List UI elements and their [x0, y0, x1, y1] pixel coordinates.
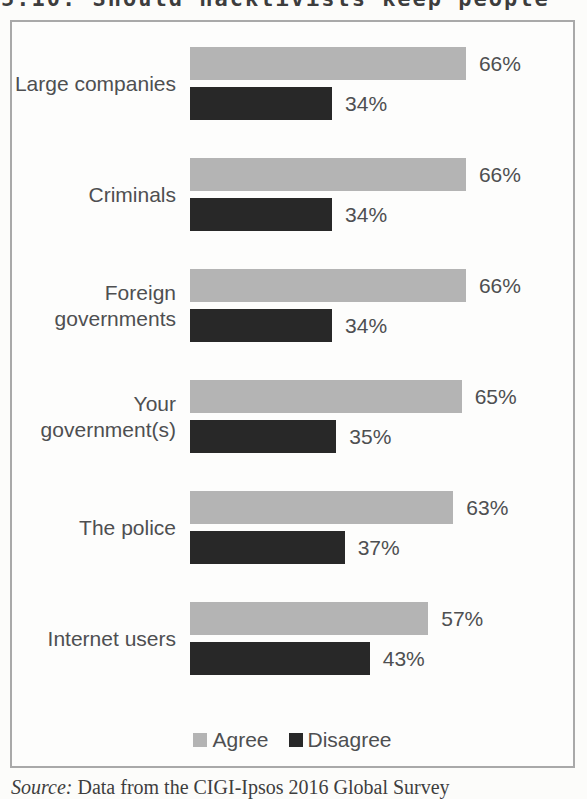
bar-line-disagree: 34% — [190, 309, 573, 342]
bar-line-disagree: 35% — [190, 420, 573, 453]
bar-pair: 57%43% — [190, 602, 573, 675]
legend-label-disagree: Disagree — [308, 728, 392, 752]
chart-row: The police63%37% — [12, 491, 573, 564]
bar-value-label: 66% — [479, 52, 521, 76]
bar-line-disagree: 37% — [190, 531, 573, 564]
bar-value-label: 65% — [475, 385, 517, 409]
disagree-bar — [190, 531, 345, 564]
bar-value-label: 34% — [345, 314, 387, 338]
chart-row: Large companies66%34% — [12, 47, 573, 120]
chart-row: Criminals66%34% — [12, 158, 573, 231]
disagree-bar — [190, 642, 370, 675]
source-note: Source: Data from the CIGI-Ipsos 2016 Gl… — [11, 776, 450, 799]
chart-row: Foreign governments66%34% — [12, 269, 573, 342]
bar-line-agree: 57% — [190, 602, 573, 635]
category-label: Your government(s) — [12, 391, 190, 443]
disagree-swatch-icon — [289, 733, 303, 747]
legend-item-disagree: Disagree — [289, 728, 392, 752]
agree-bar — [190, 491, 453, 524]
disagree-bar — [190, 420, 336, 453]
chart-rows: Large companies66%34%Criminals66%34%Fore… — [12, 47, 573, 675]
disagree-bar — [190, 198, 332, 231]
category-label: Internet users — [12, 626, 190, 652]
bar-line-disagree: 34% — [190, 198, 573, 231]
bar-value-label: 63% — [466, 496, 508, 520]
bar-value-label: 66% — [479, 163, 521, 187]
disagree-bar — [190, 87, 332, 120]
agree-bar — [190, 47, 466, 80]
bar-line-agree: 63% — [190, 491, 573, 524]
bar-line-disagree: 34% — [190, 87, 573, 120]
bar-line-disagree: 43% — [190, 642, 573, 675]
bar-value-label: 34% — [345, 203, 387, 227]
source-prefix: Source: — [11, 776, 72, 798]
bar-line-agree: 65% — [190, 380, 573, 413]
bar-value-label: 37% — [358, 536, 400, 560]
bar-pair: 66%34% — [190, 47, 573, 120]
category-label: Criminals — [12, 182, 190, 208]
bar-line-agree: 66% — [190, 269, 573, 302]
agree-bar — [190, 269, 466, 302]
source-text: Data from the CIGI-Ipsos 2016 Global Sur… — [72, 776, 449, 798]
bar-pair: 66%34% — [190, 269, 573, 342]
figure-title: 5.10: Should hacktivists keep people — [1, 0, 550, 11]
agree-swatch-icon — [193, 733, 207, 747]
bar-line-agree: 66% — [190, 47, 573, 80]
bar-pair: 65%35% — [190, 380, 573, 453]
chart-row: Your government(s)65%35% — [12, 380, 573, 453]
bar-value-label: 43% — [383, 647, 425, 671]
disagree-bar — [190, 309, 332, 342]
bar-value-label: 66% — [479, 274, 521, 298]
agree-bar — [190, 602, 428, 635]
bar-line-agree: 66% — [190, 158, 573, 191]
category-label: Large companies — [12, 71, 190, 97]
bar-value-label: 34% — [345, 92, 387, 116]
category-label: Foreign governments — [12, 280, 190, 332]
bar-value-label: 57% — [441, 607, 483, 631]
category-label: The police — [12, 515, 190, 541]
bar-pair: 66%34% — [190, 158, 573, 231]
chart-frame: Large companies66%34%Criminals66%34%Fore… — [10, 20, 575, 768]
chart-row: Internet users57%43% — [12, 602, 573, 675]
chart-legend: Agree Disagree — [12, 728, 573, 752]
legend-label-agree: Agree — [212, 728, 268, 752]
agree-bar — [190, 380, 462, 413]
agree-bar — [190, 158, 466, 191]
bar-pair: 63%37% — [190, 491, 573, 564]
bar-value-label: 35% — [349, 425, 391, 449]
legend-item-agree: Agree — [193, 728, 268, 752]
